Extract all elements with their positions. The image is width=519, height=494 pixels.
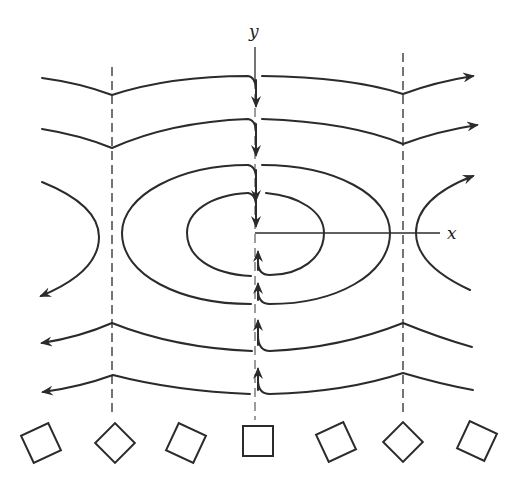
- upper-streamline-1-right: [262, 76, 473, 94]
- square-5: [316, 422, 356, 462]
- upper-streamline-2-right: [262, 119, 477, 144]
- diagram-canvas: y x: [0, 0, 519, 494]
- upper-streamline-1: [42, 76, 473, 106]
- x-axis-label: x: [447, 223, 457, 243]
- lower-streamline-2-left: [43, 375, 250, 394]
- upper-streamline-1-left: [42, 76, 256, 95]
- lower-streamline-1-right: [258, 323, 472, 351]
- inner-ellipse-left: [187, 193, 251, 276]
- square-6: [383, 422, 423, 462]
- lower-streamline-1-left: [42, 323, 252, 351]
- square-4: [243, 426, 273, 456]
- field-diagram: y x: [0, 0, 519, 494]
- y-axis-label: y: [248, 21, 259, 41]
- square-1: [21, 423, 61, 463]
- square-7: [457, 421, 497, 461]
- upper-streamline-2: [42, 119, 477, 155]
- lower-streamline-2-right: [258, 373, 473, 394]
- square-2: [95, 423, 135, 463]
- lower-streamline-2: [43, 369, 473, 394]
- upper-streamline-2-left: [42, 119, 256, 148]
- inner-ellipse-right: [258, 193, 324, 275]
- lower-streamline-1: [42, 321, 472, 351]
- outer-closed-streamline: [122, 165, 390, 304]
- rotating-squares: [21, 421, 497, 463]
- left-hyperbola-streamline: [41, 182, 99, 296]
- square-3: [166, 423, 206, 463]
- axes: y x: [248, 21, 457, 420]
